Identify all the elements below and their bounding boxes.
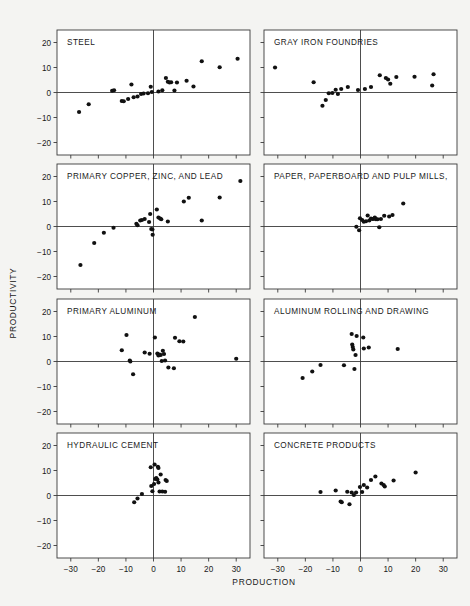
y-tick-label: 10	[42, 333, 52, 342]
data-point	[148, 212, 152, 216]
data-point	[354, 225, 358, 229]
y-tick-label: −10	[37, 248, 51, 257]
data-point	[369, 85, 373, 89]
panel-title-hydraulic-cement: HYDRAULIC CEMENT	[67, 441, 158, 450]
data-point	[414, 470, 418, 474]
data-point	[365, 485, 369, 489]
data-point	[78, 263, 82, 267]
y-tick-label: −10	[37, 383, 51, 392]
data-point	[159, 217, 163, 221]
data-point	[143, 217, 147, 221]
data-point	[141, 91, 145, 95]
data-point	[363, 87, 367, 91]
y-tick-label: −20	[37, 408, 51, 417]
data-point	[165, 479, 169, 483]
data-point	[135, 94, 139, 98]
data-point	[129, 82, 133, 86]
data-point	[156, 480, 160, 484]
data-point	[147, 220, 151, 224]
y-tick-label: 10	[42, 64, 52, 73]
data-point	[377, 225, 381, 229]
data-point	[77, 110, 81, 114]
y-axis-label: PRODUCTIVITY	[8, 268, 18, 339]
plot-canvas: 20100−10−20STEELGRAY IRON FOUNDRIES20100…	[0, 0, 470, 606]
data-point	[163, 358, 167, 362]
y-tick-label: −20	[37, 139, 51, 148]
data-point	[354, 490, 358, 494]
y-tick-label: −10	[37, 114, 51, 123]
data-point	[238, 179, 242, 183]
data-point	[182, 199, 186, 203]
data-point	[160, 88, 164, 92]
data-point	[320, 104, 324, 108]
data-point	[378, 73, 382, 77]
x-tick-label: 0	[358, 565, 363, 574]
data-point	[357, 228, 361, 232]
data-point	[162, 352, 166, 356]
data-point	[153, 335, 157, 339]
data-point	[235, 57, 239, 61]
y-tick-label: 20	[42, 39, 52, 48]
x-tick-label: −30	[64, 565, 78, 574]
x-tick-label: 30	[439, 565, 449, 574]
data-point	[361, 335, 365, 339]
y-tick-label: 20	[42, 308, 52, 317]
x-tick-label: 0	[151, 565, 156, 574]
y-tick-label: −20	[37, 273, 51, 282]
data-point	[350, 332, 354, 336]
data-point	[391, 478, 395, 482]
data-point	[150, 90, 154, 94]
x-tick-label: −30	[271, 565, 285, 574]
data-point	[166, 219, 170, 223]
data-point	[193, 315, 197, 319]
data-point	[163, 490, 167, 494]
data-point	[159, 472, 163, 476]
panel-aluminum-rolling-and-drawing: ALUMINUM ROLLING AND DRAWING	[261, 299, 458, 428]
data-point	[362, 483, 366, 487]
data-point	[346, 85, 350, 89]
x-tick-label: −10	[326, 565, 340, 574]
data-point	[149, 85, 153, 89]
y-tick-label: 0	[46, 492, 51, 501]
data-point	[273, 65, 277, 69]
data-point	[318, 363, 322, 367]
data-point	[401, 201, 405, 205]
data-point	[172, 88, 176, 92]
panel-title-paper-paperboard-pulp-mills: PAPER, PAPERBOARD AND PULP MILLS,	[274, 172, 448, 181]
data-point	[200, 59, 204, 63]
panel-paper-paperboard-pulp-mills: PAPER, PAPERBOARD AND PULP MILLS,	[261, 164, 458, 293]
data-point	[430, 83, 434, 87]
x-tick-label: 10	[177, 565, 187, 574]
data-point	[358, 485, 362, 489]
data-point	[390, 213, 394, 217]
data-point	[191, 84, 195, 88]
data-point	[373, 474, 377, 478]
y-tick-label: 0	[46, 358, 51, 367]
y-tick-label: −10	[37, 517, 51, 526]
data-point	[379, 217, 383, 221]
x-tick-label: 10	[384, 565, 394, 574]
data-point	[330, 91, 334, 95]
data-point	[152, 482, 156, 486]
data-point	[150, 227, 154, 231]
scatter-plot-matrix-figure: 20100−10−20STEELGRAY IRON FOUNDRIES20100…	[0, 0, 470, 606]
data-point	[336, 92, 340, 96]
y-tick-label: 0	[46, 89, 51, 98]
data-point	[412, 75, 416, 79]
data-point	[318, 490, 322, 494]
data-point	[156, 89, 160, 93]
data-point	[87, 102, 91, 106]
panel-primary-copper-zinc-lead: 20100−10−20PRIMARY COPPER, ZINC, AND LEA…	[37, 164, 250, 293]
data-point	[234, 357, 238, 361]
data-point	[164, 76, 168, 80]
x-tick-label: −20	[91, 565, 105, 574]
data-point	[135, 223, 139, 227]
data-point	[345, 490, 349, 494]
x-tick-label: 30	[232, 565, 242, 574]
data-point	[369, 478, 373, 482]
panel-gray-iron-foundries: GRAY IRON FOUNDRIES	[261, 30, 458, 159]
data-point	[131, 372, 135, 376]
data-point	[122, 99, 126, 103]
data-point	[310, 369, 314, 373]
data-point	[151, 233, 155, 237]
